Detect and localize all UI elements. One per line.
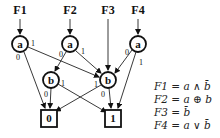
edge-label-bR-0: 0 — [101, 90, 105, 99]
equation-f1: F1 = a ∧ b̄ — [154, 80, 212, 93]
edge-label-a2-0: 0 — [59, 50, 63, 59]
equation-f2: F2 = a ⊕ b — [154, 93, 212, 106]
equation-f3: F3 = b̄ — [154, 106, 212, 119]
edge-label-a1-0: 0 — [16, 53, 20, 62]
equation-f4: F4 = a ∨ b̄ — [154, 119, 212, 132]
edge-label-bL-1: 1 — [61, 79, 65, 88]
root-label-f4: F4 — [131, 3, 144, 18]
edge-bR-0 — [109, 88, 111, 108]
edge-bL-1 — [58, 84, 106, 112]
equations: F1 = a ∧ b̄ F2 = a ⊕ b F3 = b̄ F4 = a ∨ … — [154, 80, 212, 132]
node-bR-label: b — [105, 74, 111, 86]
edge-bL-0 — [50, 88, 51, 108]
root-label-f3: F3 — [101, 3, 114, 18]
terminal-0-label: 0 — [46, 112, 52, 124]
edge-label-bL-0: 0 — [44, 90, 48, 99]
edge-label-a4-1: 1 — [139, 58, 143, 67]
edge-bR-1 — [56, 85, 101, 111]
edge-a4-1 — [118, 52, 136, 108]
edge-a4-0 — [115, 50, 132, 73]
node-a4-label: a — [135, 38, 141, 50]
edge-a2-1 — [76, 51, 101, 73]
edge-label-a2-1: 1 — [81, 47, 85, 56]
edge-a1-0 — [24, 52, 45, 108]
node-a2-label: a — [67, 38, 73, 50]
terminal-1-label: 1 — [110, 112, 116, 124]
edge-label-bR-1: 1 — [94, 80, 98, 89]
root-label-f1: F1 — [13, 3, 26, 18]
edge-label-a4-0: 0 — [125, 48, 129, 57]
edge-label-a1-1: 1 — [31, 39, 35, 48]
root-label-f2: F2 — [63, 3, 76, 18]
node-a1-label: a — [17, 38, 23, 50]
node-bL-label: b — [48, 74, 54, 86]
